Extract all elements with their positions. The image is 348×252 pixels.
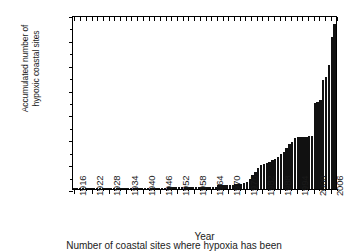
top-minor-tick [251,17,252,21]
top-minor-tick [262,17,263,21]
x-tick [143,189,144,194]
top-minor-tick [297,17,298,21]
y-tick [69,141,74,142]
top-minor-tick [74,17,75,21]
top-minor-tick [92,17,93,21]
x-tick-label: 1952 [180,176,191,196]
top-minor-tick [308,17,309,21]
bar [333,24,335,189]
top-minor-tick [319,17,320,21]
y-minor-tick [70,129,73,130]
top-minor-tick [206,17,207,21]
y-tick [69,67,74,68]
figure-caption: Number of coastal sites where hypoxia ha… [0,240,348,251]
top-minor-tick [240,17,241,21]
x-tick-label: 1958 [197,176,208,196]
top-minor-tick [325,17,326,21]
x-tick [160,189,161,194]
y-tick [69,191,74,192]
top-minor-tick [314,17,315,21]
x-tick [262,189,263,194]
x-tick [280,189,281,194]
top-minor-tick [280,17,281,21]
top-minor-tick [268,17,269,21]
top-minor-tick [211,17,212,21]
y-tick [69,17,74,18]
top-minor-tick [154,17,155,21]
top-minor-tick [183,17,184,21]
top-minor-tick [274,17,275,21]
top-minor-tick [285,17,286,21]
x-tick-label: 2000 [317,176,328,196]
y-minor-tick [70,29,73,30]
y-minor-tick [70,54,73,55]
x-tick [331,189,332,194]
x-tick-label: 2006 [334,176,345,196]
y-minor-tick [70,104,73,105]
top-minor-tick [234,17,235,21]
top-minor-tick [291,17,292,21]
y-minor-tick [70,154,73,155]
chart-figure: Accumulated number of hypoxic coastal si… [0,0,348,252]
top-minor-tick [143,17,144,21]
x-tick [211,189,212,194]
x-tick [109,189,110,194]
y-tick [69,166,74,167]
top-minor-tick [171,17,172,21]
top-minor-tick [103,17,104,21]
y-axis-title-line2: hypoxic coastal sites [30,0,41,157]
top-minor-tick [223,17,224,21]
y-minor-tick [70,179,73,180]
y-axis-title: Accumulated number of hypoxic coastal si… [20,0,41,157]
top-minor-tick [302,17,303,21]
plot-area [72,16,337,190]
top-minor-tick [331,17,332,21]
y-tick [69,92,74,93]
top-minor-tick [86,17,87,21]
top-minor-tick [188,17,189,21]
top-minor-tick [137,17,138,21]
x-tick-label: 1946 [163,176,174,196]
x-tick-label: 1982 [265,176,276,196]
x-tick [314,189,315,194]
top-minor-tick [160,17,161,21]
top-minor-tick [97,17,98,21]
top-minor-tick [126,17,127,21]
top-minor-tick [177,17,178,21]
top-minor-tick [109,17,110,21]
x-tick-label: 1964 [214,176,225,196]
top-minor-tick [245,17,246,21]
top-minor-tick [194,17,195,21]
x-tick [297,189,298,194]
y-tick [69,116,74,117]
top-minor-tick [228,17,229,21]
x-tick-label: 1988 [282,176,293,196]
top-minor-tick [200,17,201,21]
top-minor-tick [80,17,81,21]
top-minor-tick [131,17,132,21]
bar-series [73,17,336,189]
top-minor-tick [149,17,150,21]
x-tick-label: 1940 [146,176,157,196]
x-tick [126,189,127,194]
x-tick-label: 1970 [231,176,242,196]
top-minor-tick [217,17,218,21]
y-tick [69,42,74,43]
top-minor-tick [257,17,258,21]
x-tick-label: 1928 [111,176,122,196]
x-tick-label: 1934 [129,176,140,196]
x-tick [228,189,229,194]
top-minor-tick [114,17,115,21]
x-tick-label: 1916 [77,176,88,196]
x-tick [92,189,93,194]
x-tick [74,189,75,194]
x-tick-label: 1922 [94,176,105,196]
top-minor-tick [337,17,338,21]
x-tick [245,189,246,194]
top-minor-tick [120,17,121,21]
y-axis-title-line1: Accumulated number of [20,0,31,157]
y-minor-tick [70,79,73,80]
x-tick [177,189,178,194]
x-tick-label: 1994 [299,176,310,196]
top-minor-tick [166,17,167,21]
